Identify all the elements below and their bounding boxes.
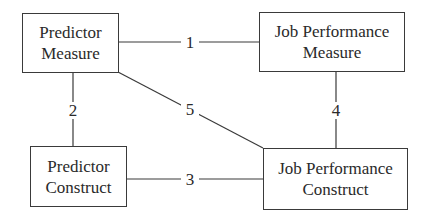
node-label-line1: Job Performance	[275, 21, 390, 42]
node-predictor-measure: Predictor Measure	[22, 13, 119, 73]
node-label-line2: Construct	[45, 177, 111, 198]
node-label-line1: Predictor	[47, 156, 109, 177]
node-label-line2: Construct	[302, 179, 368, 200]
edge-label-3: 3	[181, 171, 199, 188]
node-predictor-construct: Predictor Construct	[30, 146, 127, 207]
node-label-line2: Measure	[303, 42, 362, 63]
edge-label-1: 1	[181, 34, 199, 51]
node-label-line1: Job Performance	[278, 158, 393, 179]
node-job-performance-construct: Job Performance Construct	[263, 148, 408, 210]
edge-label-2: 2	[66, 102, 80, 119]
node-label-line2: Measure	[41, 43, 100, 64]
node-job-performance-measure: Job Performance Measure	[259, 12, 405, 72]
edge-label-5: 5	[181, 101, 199, 118]
edge-label-4: 4	[329, 102, 343, 119]
node-label-line1: Predictor	[39, 22, 101, 43]
